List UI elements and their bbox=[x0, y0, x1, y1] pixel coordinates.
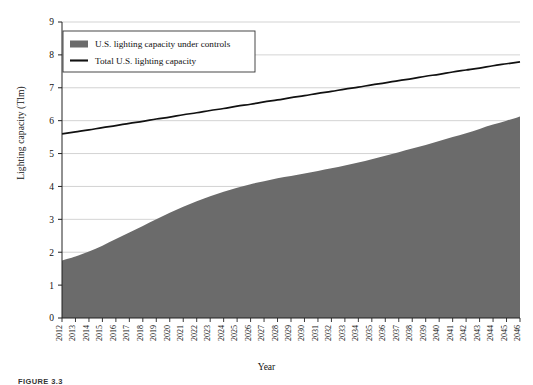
y-tick-label: 3 bbox=[49, 215, 54, 225]
y-tick-label: 9 bbox=[49, 17, 54, 27]
legend-swatch-area-icon bbox=[70, 41, 88, 48]
x-tick-label: 2013 bbox=[68, 325, 77, 341]
x-tick-label: 2046 bbox=[513, 325, 522, 341]
x-tick-label: 2031 bbox=[311, 325, 320, 341]
x-tick-label: 2029 bbox=[284, 325, 293, 341]
y-axis-ticks: 0123456789 bbox=[49, 17, 62, 323]
figure-caption: FIGURE 3.3 bbox=[18, 377, 63, 385]
x-tick-label: 2018 bbox=[136, 325, 145, 341]
x-tick-label: 2014 bbox=[82, 325, 91, 341]
x-tick-label: 2016 bbox=[109, 325, 118, 341]
y-tick-label: 8 bbox=[49, 50, 54, 60]
x-tick-label: 2033 bbox=[338, 325, 347, 341]
chart-canvas: 0123456789 20122013201420152016201720182… bbox=[0, 0, 533, 385]
chart-legend: U.S. lighting capacity under controls To… bbox=[63, 31, 255, 72]
x-tick-label: 2032 bbox=[324, 325, 333, 341]
x-tick-label: 2022 bbox=[190, 325, 199, 341]
x-tick-label: 2028 bbox=[271, 325, 280, 341]
y-tick-label: 2 bbox=[49, 248, 54, 258]
x-tick-label: 2044 bbox=[486, 325, 495, 341]
y-tick-label: 0 bbox=[49, 313, 54, 323]
x-tick-label: 2030 bbox=[297, 325, 306, 341]
y-tick-label: 5 bbox=[49, 149, 54, 159]
legend-label-controls: U.S. lighting capacity under controls bbox=[95, 39, 231, 49]
x-tick-label: 2036 bbox=[378, 325, 387, 341]
x-tick-label: 2021 bbox=[176, 325, 185, 341]
x-tick-label: 2045 bbox=[500, 325, 509, 341]
x-tick-label: 2020 bbox=[163, 325, 172, 341]
x-axis-title: Year bbox=[0, 362, 533, 372]
x-tick-label: 2034 bbox=[351, 325, 360, 341]
x-tick-label: 2027 bbox=[257, 325, 266, 341]
x-tick-label: 2015 bbox=[95, 325, 104, 341]
y-tick-label: 4 bbox=[49, 182, 54, 192]
y-axis-title: Lighting capacity (Tlm) bbox=[16, 68, 26, 198]
x-tick-label: 2012 bbox=[55, 325, 64, 341]
x-tick-label: 2019 bbox=[149, 325, 158, 341]
x-axis-ticks: 2012201320142015201620172018201920202021… bbox=[55, 318, 522, 341]
y-tick-label: 1 bbox=[49, 281, 54, 291]
x-tick-label: 2017 bbox=[122, 325, 131, 341]
x-tick-label: 2040 bbox=[432, 325, 441, 341]
y-tick-label: 7 bbox=[49, 83, 54, 93]
x-tick-label: 2025 bbox=[230, 325, 239, 341]
legend-label-total: Total U.S. lighting capacity bbox=[95, 56, 197, 66]
x-tick-label: 2024 bbox=[217, 325, 226, 341]
x-tick-label: 2038 bbox=[405, 325, 414, 341]
y-tick-label: 6 bbox=[49, 116, 54, 126]
x-tick-label: 2043 bbox=[473, 325, 482, 341]
x-tick-label: 2035 bbox=[365, 325, 374, 341]
x-tick-label: 2041 bbox=[446, 325, 455, 341]
x-tick-label: 2023 bbox=[203, 325, 212, 341]
x-tick-label: 2039 bbox=[419, 325, 428, 341]
x-tick-label: 2042 bbox=[459, 325, 468, 341]
x-tick-label: 2026 bbox=[244, 325, 253, 341]
figure-container: 0123456789 20122013201420152016201720182… bbox=[0, 0, 533, 385]
x-tick-label: 2037 bbox=[392, 325, 401, 341]
